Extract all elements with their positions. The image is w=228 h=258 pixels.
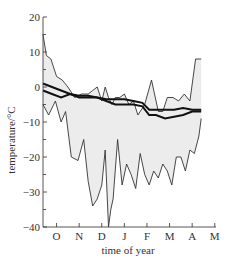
- y-axis: 20100−10−20−30−40: [23, 11, 47, 233]
- x-tick-label-A: A: [188, 230, 196, 242]
- x-tick-label-O: O: [53, 230, 61, 242]
- y-tick-label: −10: [23, 116, 41, 128]
- x-tick-label-D: D: [98, 230, 106, 242]
- x-axis: ONDJFMAM: [43, 223, 220, 242]
- temperature-chart: 20100−10−20−30−40 ONDJFMAM temperature/°…: [0, 0, 228, 258]
- y-tick-label: −40: [23, 221, 41, 233]
- temperature-range-band: [43, 35, 201, 228]
- y-tick-label: 20: [29, 11, 41, 23]
- x-tick-label-N: N: [75, 230, 83, 242]
- y-tick-label: −30: [23, 186, 41, 198]
- x-tick-label-J: J: [122, 230, 127, 242]
- x-tick-label-M: M: [210, 230, 220, 242]
- y-tick-label: −20: [23, 151, 41, 163]
- x-axis-title: time of year: [101, 244, 154, 256]
- x-tick-label-M: M: [165, 230, 175, 242]
- y-tick-label: 0: [35, 81, 41, 93]
- x-tick-label-F: F: [144, 230, 150, 242]
- y-tick-label: 10: [29, 46, 41, 58]
- y-axis-title: temperature/°C: [5, 106, 17, 173]
- plot-area: [43, 35, 201, 228]
